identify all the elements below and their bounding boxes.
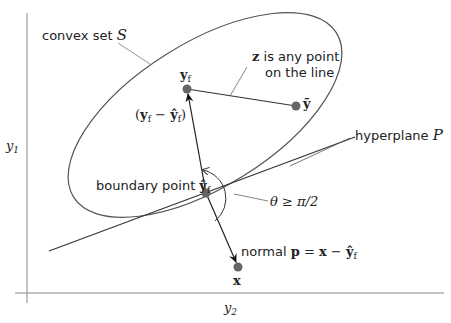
normal-label: normal p = x − ŷf <box>241 245 357 258</box>
yf-label: yf <box>180 68 191 81</box>
ytilde-label: ỹ <box>303 97 311 110</box>
x-point <box>234 263 243 272</box>
boundary-point-label: boundary point ŷf <box>96 179 210 192</box>
diagram-canvas: y1 y2 convex set S z is any point on the… <box>0 0 451 323</box>
hyperplane-leader <box>290 138 350 166</box>
z-leader <box>230 67 247 96</box>
z-label-line2: on the line <box>265 66 334 79</box>
normal-vector <box>206 193 236 262</box>
theta-leader <box>234 194 268 201</box>
convex-set-leader <box>118 43 150 64</box>
z-label-line1: z is any point <box>252 50 339 63</box>
ytilde-point <box>292 102 301 111</box>
difference-vector-label: (yf − ŷf) <box>135 108 186 121</box>
hyperplane-label: hyperplane P <box>355 128 443 143</box>
yf-point <box>183 85 192 94</box>
y1-axis-label: y1 <box>6 139 19 152</box>
yf-ytilde-line <box>187 89 296 106</box>
theta-label: θ ≥ π/2 <box>270 195 318 208</box>
diagram-svg <box>0 0 451 323</box>
y2-axis-label: y2 <box>224 301 237 314</box>
convex-set-label: convex set S <box>42 28 127 43</box>
x-label: x <box>233 274 241 287</box>
